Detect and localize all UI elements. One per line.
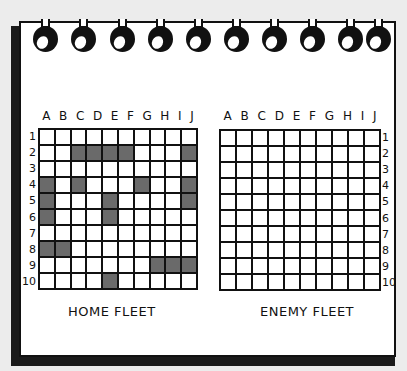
enemy-cell-j10[interactable] (365, 275, 379, 289)
enemy-cell-a4[interactable] (221, 179, 235, 193)
enemy-cell-e6[interactable] (285, 211, 299, 225)
enemy-cell-f10[interactable] (301, 275, 315, 289)
enemy-cell-e3[interactable] (285, 163, 299, 177)
enemy-cell-f4[interactable] (301, 179, 315, 193)
enemy-cell-f5[interactable] (301, 195, 315, 209)
enemy-cell-g2[interactable] (317, 147, 331, 161)
enemy-cell-j9[interactable] (365, 259, 379, 273)
enemy-cell-j3[interactable] (365, 163, 379, 177)
enemy-cell-j7[interactable] (365, 227, 379, 241)
enemy-cell-f9[interactable] (301, 259, 315, 273)
enemy-cell-i2[interactable] (349, 147, 363, 161)
enemy-cell-g9[interactable] (317, 259, 331, 273)
enemy-cell-d6[interactable] (269, 211, 283, 225)
enemy-cell-d5[interactable] (269, 195, 283, 209)
enemy-cell-h2[interactable] (333, 147, 347, 161)
enemy-cell-d7[interactable] (269, 227, 283, 241)
enemy-cell-i3[interactable] (349, 163, 363, 177)
enemy-cell-d8[interactable] (269, 243, 283, 257)
enemy-cell-g1[interactable] (317, 131, 331, 145)
enemy-cell-b5[interactable] (237, 195, 251, 209)
enemy-cell-b4[interactable] (237, 179, 251, 193)
enemy-cell-a1[interactable] (221, 131, 235, 145)
enemy-cell-b7[interactable] (237, 227, 251, 241)
enemy-cell-b10[interactable] (237, 275, 251, 289)
enemy-cell-h10[interactable] (333, 275, 347, 289)
enemy-cell-e2[interactable] (285, 147, 299, 161)
enemy-cell-j1[interactable] (365, 131, 379, 145)
enemy-cell-d4[interactable] (269, 179, 283, 193)
enemy-cell-j2[interactable] (365, 147, 379, 161)
enemy-cell-f8[interactable] (301, 243, 315, 257)
enemy-cell-j6[interactable] (365, 211, 379, 225)
enemy-cell-a6[interactable] (221, 211, 235, 225)
enemy-cell-i4[interactable] (349, 179, 363, 193)
enemy-cell-h6[interactable] (333, 211, 347, 225)
enemy-cell-c5[interactable] (253, 195, 267, 209)
enemy-cell-g3[interactable] (317, 163, 331, 177)
enemy-cell-c8[interactable] (253, 243, 267, 257)
enemy-cell-b1[interactable] (237, 131, 251, 145)
enemy-cell-g10[interactable] (317, 275, 331, 289)
enemy-cell-d10[interactable] (269, 275, 283, 289)
enemy-cell-d2[interactable] (269, 147, 283, 161)
enemy-cell-e5[interactable] (285, 195, 299, 209)
enemy-cell-j8[interactable] (365, 243, 379, 257)
enemy-cell-i9[interactable] (349, 259, 363, 273)
enemy-cell-i5[interactable] (349, 195, 363, 209)
enemy-cell-f2[interactable] (301, 147, 315, 161)
enemy-cell-h5[interactable] (333, 195, 347, 209)
enemy-cell-f3[interactable] (301, 163, 315, 177)
enemy-cell-d3[interactable] (269, 163, 283, 177)
enemy-cell-j5[interactable] (365, 195, 379, 209)
enemy-cell-b9[interactable] (237, 259, 251, 273)
enemy-cell-d9[interactable] (269, 259, 283, 273)
enemy-cell-a8[interactable] (221, 243, 235, 257)
enemy-cell-c4[interactable] (253, 179, 267, 193)
enemy-cell-a9[interactable] (221, 259, 235, 273)
enemy-cell-a2[interactable] (221, 147, 235, 161)
enemy-cell-h7[interactable] (333, 227, 347, 241)
enemy-cell-h4[interactable] (333, 179, 347, 193)
enemy-cell-e4[interactable] (285, 179, 299, 193)
enemy-cell-c6[interactable] (253, 211, 267, 225)
enemy-cell-c2[interactable] (253, 147, 267, 161)
enemy-cell-g8[interactable] (317, 243, 331, 257)
enemy-cell-i6[interactable] (349, 211, 363, 225)
enemy-cell-a7[interactable] (221, 227, 235, 241)
enemy-cell-g5[interactable] (317, 195, 331, 209)
enemy-cell-e7[interactable] (285, 227, 299, 241)
enemy-cell-h9[interactable] (333, 259, 347, 273)
enemy-cell-b8[interactable] (237, 243, 251, 257)
enemy-cell-c3[interactable] (253, 163, 267, 177)
enemy-cell-c7[interactable] (253, 227, 267, 241)
enemy-cell-g7[interactable] (317, 227, 331, 241)
enemy-cell-b3[interactable] (237, 163, 251, 177)
enemy-cell-h8[interactable] (333, 243, 347, 257)
enemy-cell-c10[interactable] (253, 275, 267, 289)
enemy-cell-e1[interactable] (285, 131, 299, 145)
enemy-cell-c9[interactable] (253, 259, 267, 273)
enemy-cell-e8[interactable] (285, 243, 299, 257)
enemy-cell-f7[interactable] (301, 227, 315, 241)
enemy-cell-b6[interactable] (237, 211, 251, 225)
enemy-cell-a5[interactable] (221, 195, 235, 209)
enemy-cell-f6[interactable] (301, 211, 315, 225)
enemy-cell-c1[interactable] (253, 131, 267, 145)
enemy-cell-j4[interactable] (365, 179, 379, 193)
enemy-cell-i10[interactable] (349, 275, 363, 289)
enemy-cell-i8[interactable] (349, 243, 363, 257)
enemy-cell-a10[interactable] (221, 275, 235, 289)
enemy-cell-a3[interactable] (221, 163, 235, 177)
enemy-cell-h1[interactable] (333, 131, 347, 145)
enemy-cell-g6[interactable] (317, 211, 331, 225)
enemy-cell-f1[interactable] (301, 131, 315, 145)
enemy-cell-h3[interactable] (333, 163, 347, 177)
enemy-cell-i7[interactable] (349, 227, 363, 241)
enemy-cell-i1[interactable] (349, 131, 363, 145)
enemy-cell-e10[interactable] (285, 275, 299, 289)
enemy-cell-b2[interactable] (237, 147, 251, 161)
enemy-cell-d1[interactable] (269, 131, 283, 145)
enemy-cell-g4[interactable] (317, 179, 331, 193)
enemy-cell-e9[interactable] (285, 259, 299, 273)
